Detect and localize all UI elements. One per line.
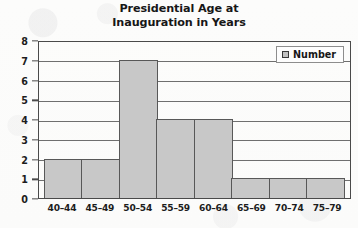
bar [119,60,158,198]
x-axis-tick-label: 50–54 [119,203,157,213]
chart-title-line-1: Presidential Age at [0,2,358,16]
bar [81,159,120,199]
plot-area: Number [38,41,351,199]
y-axis-tick-label: 2 [21,154,28,165]
y-axis-tick-label: 8 [21,36,28,47]
x-axis: 40–4445–4950–5455–5960–6465–6970–7475–79 [38,203,351,213]
y-axis-tick-label: 1 [21,174,28,185]
bar [194,119,233,198]
legend-swatch-square-icon [282,51,289,58]
y-axis-tick-label: 0 [21,194,28,205]
x-axis-tick-label: 45–49 [81,203,119,213]
y-axis-tick-label: 4 [21,115,28,126]
y-axis-tick-label: 3 [21,134,28,145]
x-axis-tick-label: 65–69 [232,203,270,213]
chart-screenshot: Presidential Age at Inauguration in Year… [0,0,358,228]
y-axis-tick-label: 7 [21,55,28,66]
chart-title: Presidential Age at Inauguration in Year… [0,2,358,30]
chart-title-line-2: Inauguration in Years [0,16,358,30]
bars-group [39,42,350,198]
x-axis-tick-label: 70–74 [270,203,308,213]
x-axis-tick-label: 40–44 [43,203,81,213]
x-axis-tick-label: 60–64 [195,203,233,213]
x-axis-tick-label: 75–79 [308,203,346,213]
bar [269,178,308,198]
x-axis-tick-label: 55–59 [157,203,195,213]
y-axis: 012345678 [8,41,32,199]
bar [306,178,345,198]
y-axis-tick-label: 6 [21,75,28,86]
bar [44,159,83,199]
y-axis-tick-label: 5 [21,95,28,106]
bar [231,178,270,198]
bar [156,119,195,198]
legend: Number [276,46,344,63]
legend-label: Number [293,49,336,60]
